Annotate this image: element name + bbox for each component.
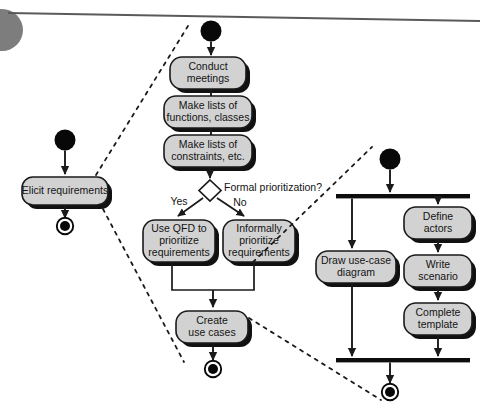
activity-conduct-meetings[interactable]: Conduct meetings: [170, 57, 250, 93]
activity-label-line1: Draw use-case: [321, 254, 391, 266]
activity-label-line2: constraints, etc.: [171, 150, 245, 162]
activity-label-line2: prioritize: [239, 234, 279, 246]
activity-label-line2: prioritize: [159, 234, 199, 246]
activity-label-line2: diagram: [337, 266, 375, 278]
activity-make-lists-functions[interactable]: Make lists of functions, classes: [164, 96, 256, 132]
activity-label: Elicit requirements: [22, 184, 108, 196]
activity-label-line2: scenario: [418, 270, 458, 282]
diagram-svg: Elicit requirements Conduct meetings: [0, 0, 488, 420]
page-decoration: [0, 8, 480, 52]
activity-label-line1: Make lists of: [179, 99, 237, 111]
activity-label-line1: Create: [196, 314, 228, 326]
activity-write-scenario[interactable]: Write scenario: [404, 255, 476, 291]
activity-make-lists-constraints[interactable]: Make lists of constraints, etc.: [164, 135, 256, 171]
activity-diagram-canvas: Elicit requirements Conduct meetings: [0, 0, 488, 420]
guard-no: No: [233, 196, 247, 208]
activity-label-line3: requirements: [148, 246, 209, 258]
activity-label-line1: Write: [426, 258, 450, 270]
page-corner-blob-circle: [0, 9, 23, 51]
use-case-lane: Draw use-case diagram Define actors Writ…: [316, 149, 476, 401]
activity-create-use-cases[interactable]: Create use cases: [176, 311, 252, 347]
activity-label-line2: actors: [424, 222, 453, 234]
activity-informally-prioritize[interactable]: Informally prioritize requirements: [223, 220, 299, 266]
activity-label-line1: Define: [423, 210, 454, 222]
activity-draw-use-case-diagram[interactable]: Draw use-case diagram: [316, 251, 400, 287]
join-bar-usecase: [336, 358, 470, 362]
activity-label-line1: Conduct: [188, 60, 227, 72]
activity-label-line2: meetings: [187, 72, 230, 84]
edge-merge-priority: [172, 262, 254, 290]
overview-lane: Elicit requirements: [22, 130, 112, 235]
activity-label-line1: Use QFD to: [151, 222, 207, 234]
decision-label: Formal prioritization?: [224, 181, 322, 193]
elicitation-lane: Conduct meetings Make lists of functions…: [143, 21, 322, 378]
page-top-rule: [8, 13, 480, 21]
activity-label-line2: use cases: [188, 326, 235, 338]
fork-bar-usecase: [336, 194, 470, 198]
activity-label-line1: Complete: [416, 306, 461, 318]
final-node-elicitation: [205, 361, 221, 377]
activity-use-qfd[interactable]: Use QFD to prioritize requirements: [143, 220, 219, 266]
initial-node-elicitation: [201, 21, 222, 42]
activity-label-line1: Make lists of: [179, 138, 237, 150]
initial-node-usecase: [380, 149, 401, 170]
guard-yes: Yes: [170, 195, 187, 207]
activity-complete-template[interactable]: Complete template: [404, 303, 476, 339]
final-node-usecase: [382, 384, 398, 400]
activity-define-actors[interactable]: Define actors: [404, 207, 476, 243]
activity-label-line2: functions, classes: [167, 111, 250, 123]
final-node-overview: [57, 218, 73, 234]
activity-label-line2: template: [418, 318, 458, 330]
initial-node-overview: [55, 130, 76, 151]
activity-label-line1: Informally: [236, 222, 282, 234]
activity-elicit-requirements[interactable]: Elicit requirements: [22, 177, 112, 209]
